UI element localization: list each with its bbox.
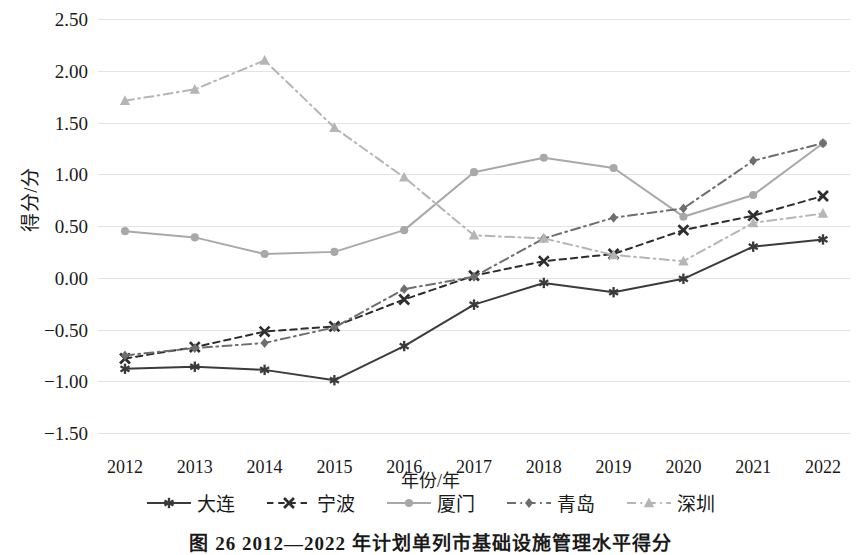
y-axis-tick-label: −1.50 [22, 423, 88, 445]
data-point-triangle [818, 208, 828, 218]
data-point-circle [679, 213, 687, 221]
legend-label: 深圳 [677, 489, 716, 516]
data-point-circle [330, 248, 338, 256]
y-axis-tick-label: 1.50 [22, 113, 88, 135]
data-point-circle [470, 168, 478, 176]
legend-item-厦门[interactable]: 厦门 [386, 489, 476, 516]
legend-swatch-cross-icon [266, 494, 312, 512]
legend-swatch-asterisk-icon [146, 494, 192, 512]
legend-label: 青岛 [557, 489, 596, 516]
y-axis-tick-label: 2.00 [22, 61, 88, 83]
y-axis-tick-label: 2.50 [22, 9, 88, 31]
legend-swatch-circle-icon [386, 494, 432, 512]
data-point-diamond [261, 338, 269, 348]
data-point-circle [404, 498, 412, 506]
legend-label: 大连 [197, 489, 236, 516]
y-axis-tick-label: −1.00 [22, 371, 88, 393]
data-point-cross [678, 225, 688, 235]
y-axis-tick-label: 0.00 [22, 268, 88, 290]
data-point-diamond [819, 138, 827, 148]
legend-label: 宁波 [317, 489, 356, 516]
legend-swatch-diamond-icon [506, 494, 552, 512]
data-point-circle [610, 164, 618, 172]
series-深圳 [120, 55, 828, 266]
data-point-circle [749, 191, 757, 199]
data-point-diamond [749, 156, 757, 166]
data-point-circle [121, 227, 129, 235]
data-point-diamond [679, 203, 687, 213]
data-point-circle [540, 154, 548, 162]
figure-caption: 图 26 2012—2022 年计划单列市基础设施管理水平得分 [0, 528, 861, 555]
data-point-circle [261, 250, 269, 258]
data-point-triangle [259, 55, 269, 65]
plot-area: 2.502.001.501.000.500.00−0.50−1.00−1.50 … [98, 19, 850, 433]
legend-swatch-triangle-icon [626, 494, 672, 512]
data-point-circle [400, 226, 408, 234]
data-point-cross [399, 295, 409, 305]
legend-item-青岛[interactable]: 青岛 [506, 489, 596, 516]
legend-item-宁波[interactable]: 宁波 [266, 489, 356, 516]
legend-item-大连[interactable]: 大连 [146, 489, 236, 516]
data-point-diamond [400, 284, 408, 294]
y-axis-tick-label: 0.50 [22, 216, 88, 238]
legend-item-深圳[interactable]: 深圳 [626, 489, 716, 516]
y-axis-tick-label: 1.00 [22, 164, 88, 186]
series-layer [98, 19, 850, 433]
gridline [98, 433, 850, 434]
y-axis-tick-label: −0.50 [22, 320, 88, 342]
data-point-triangle [399, 172, 409, 182]
chart-legend: 大连宁波厦门青岛深圳 [0, 489, 861, 516]
series-大连 [120, 234, 827, 385]
data-point-diamond [610, 213, 618, 223]
data-point-circle [191, 233, 199, 241]
data-point-diamond [524, 498, 532, 508]
data-point-asterisk [400, 341, 409, 351]
legend-label: 厦门 [437, 489, 476, 516]
